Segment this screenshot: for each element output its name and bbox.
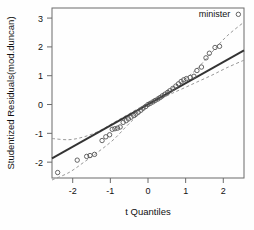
x-tick-label: 0 — [145, 186, 150, 196]
point-annotations: minister — [199, 9, 231, 19]
x-tick-label: 2 — [221, 186, 226, 196]
y-tick-label: 0 — [38, 100, 43, 110]
figure-background — [0, 0, 254, 230]
y-tick-label: -1 — [35, 129, 43, 139]
x-tick-label: -1 — [106, 186, 114, 196]
x-tick-label: 1 — [183, 186, 188, 196]
qq-plot-figure: -2-1012 -2-10123 minister t Quantiles St… — [0, 0, 254, 230]
y-tick-label: 1 — [38, 71, 43, 81]
x-axis-title: t Quantiles — [125, 206, 171, 217]
x-tick-label: -2 — [69, 186, 77, 196]
chart-canvas: -2-1012 -2-10123 minister t Quantiles St… — [0, 0, 254, 230]
y-axis-title: Studentized Residuals(mod.duncan) — [5, 16, 16, 169]
y-tick-label: 3 — [38, 14, 43, 24]
annotation-label-minister: minister — [199, 9, 231, 19]
y-tick-label: -2 — [35, 158, 43, 168]
y-tick-label: 2 — [38, 42, 43, 52]
